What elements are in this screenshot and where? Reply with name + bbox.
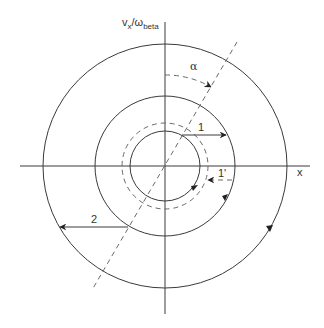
arrow-1-label: 1 (198, 121, 204, 133)
alpha-label: α (190, 60, 198, 73)
inner-circle-direction-icon (191, 185, 198, 191)
arrow-2-label: 2 (91, 213, 97, 225)
alpha-arc (165, 75, 211, 87)
x-axis-label: x (297, 166, 303, 178)
phase-space-diagram: vx/ωbeta x α 1 1' 2 (0, 0, 324, 328)
v-axis-label: vx/ωbeta (122, 16, 159, 31)
arrow-1-prime-label: 1' (218, 167, 226, 179)
outer-circle-direction-icon (266, 225, 273, 232)
